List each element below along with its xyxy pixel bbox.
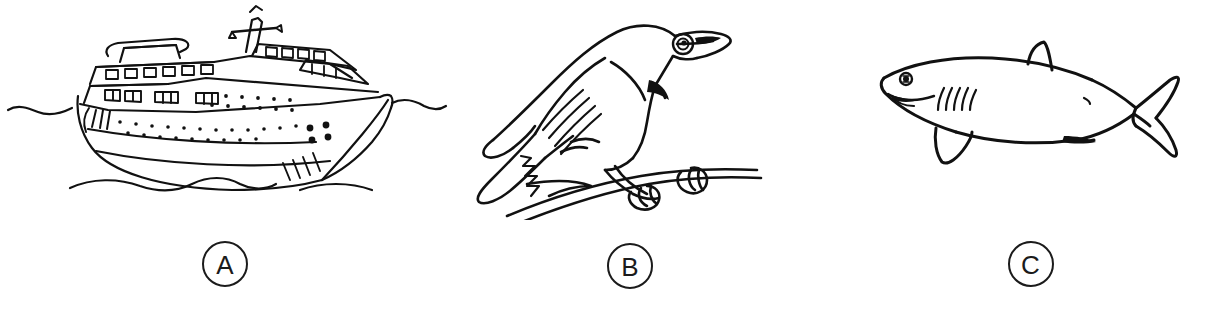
label-a-wrap: A bbox=[0, 241, 450, 287]
label-c-wrap: C bbox=[840, 241, 1221, 287]
panel-label-b: B bbox=[607, 243, 653, 289]
shark-illustration bbox=[870, 40, 1200, 190]
figure-root: A bbox=[0, 0, 1221, 325]
panel-c: C bbox=[840, 0, 1221, 325]
panel-label-c: C bbox=[1008, 241, 1054, 287]
panel-b: B bbox=[440, 0, 820, 325]
cruise-ship-illustration bbox=[0, 0, 450, 225]
label-b-wrap: B bbox=[440, 243, 820, 289]
panel-a: A bbox=[0, 0, 450, 325]
panel-label-a: A bbox=[202, 241, 248, 287]
bird-illustration bbox=[465, 0, 805, 220]
